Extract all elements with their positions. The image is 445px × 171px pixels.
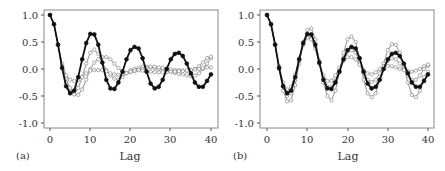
data-point-marker <box>394 51 398 55</box>
data-point-marker <box>269 22 273 26</box>
y-ticks-a: 1.0 0.5 0.0 -0.5 -1.0 <box>19 10 44 129</box>
data-point-marker <box>334 89 337 92</box>
data-point-marker <box>273 43 277 47</box>
data-point-marker <box>197 67 200 70</box>
data-point-marker <box>322 78 326 82</box>
data-point-marker <box>64 84 68 88</box>
data-point-marker <box>402 68 405 71</box>
data-point-marker <box>113 62 116 65</box>
data-point-marker <box>354 47 358 51</box>
data-point-marker <box>92 33 96 37</box>
data-point-marker <box>197 85 201 89</box>
x-ticks-b: 0 10 20 30 40 <box>264 128 435 145</box>
data-point-marker <box>141 69 144 72</box>
data-point-marker <box>398 54 402 58</box>
data-point-marker <box>73 79 76 82</box>
data-point-marker <box>330 87 334 91</box>
data-point-marker <box>48 13 52 17</box>
data-point-marker <box>346 48 350 52</box>
data-point-marker <box>342 57 346 61</box>
data-point-marker <box>317 61 321 65</box>
data-point-marker <box>125 57 129 61</box>
data-point-marker <box>56 43 60 47</box>
data-point-marker <box>414 69 417 72</box>
data-point-marker <box>285 91 289 95</box>
series-line <box>267 15 428 93</box>
data-point-marker <box>68 86 71 89</box>
data-point-marker <box>394 66 397 69</box>
data-point-marker <box>201 61 204 64</box>
data-point-marker <box>370 73 373 76</box>
data-point-marker <box>145 70 149 74</box>
data-point-marker <box>265 13 269 17</box>
data-point-marker <box>133 69 136 72</box>
panel-label-a: (a) <box>16 150 30 161</box>
y-ticks-b: 1.0 0.5 0.0 -0.5 -1.0 <box>235 10 260 129</box>
data-point-marker <box>93 61 96 64</box>
y-tick-label: 1.0 <box>238 10 254 21</box>
data-point-marker <box>157 66 160 69</box>
data-point-marker <box>386 57 390 61</box>
data-point-marker <box>113 73 116 76</box>
data-point-marker <box>394 43 397 46</box>
data-point-marker <box>293 75 297 79</box>
data-point-marker <box>334 81 338 85</box>
data-point-marker <box>193 68 196 71</box>
data-point-marker <box>197 72 200 75</box>
data-point-marker <box>173 70 176 73</box>
x-tick-label: 40 <box>205 134 218 145</box>
data-point-marker <box>89 51 92 54</box>
data-point-marker <box>374 71 377 74</box>
data-point-marker <box>205 62 208 65</box>
data-point-marker <box>410 70 413 73</box>
data-point-marker <box>354 40 357 43</box>
data-point-marker <box>89 69 92 72</box>
x-tick-label: 0 <box>264 134 270 145</box>
data-point-marker <box>153 87 157 91</box>
figure: 1.0 0.5 0.0 -0.5 -1.0 0 10 20 30 40 Lag … <box>0 0 445 171</box>
x-ticks-a: 0 10 20 30 40 <box>47 128 218 145</box>
data-point-marker <box>133 45 137 49</box>
data-point-marker <box>305 32 309 36</box>
data-point-marker <box>330 99 333 102</box>
data-point-marker <box>402 62 406 66</box>
data-point-marker <box>117 73 120 76</box>
data-point-marker <box>354 58 357 61</box>
data-point-marker <box>418 89 421 92</box>
data-point-marker <box>410 81 414 85</box>
data-point-marker <box>209 55 212 58</box>
data-point-marker <box>209 73 213 77</box>
data-point-marker <box>161 71 164 74</box>
data-point-marker <box>374 85 378 89</box>
data-point-marker <box>346 38 349 41</box>
data-point-marker <box>109 87 113 91</box>
x-tick-label: 30 <box>164 134 177 145</box>
data-point-marker <box>97 58 100 61</box>
data-point-marker <box>390 52 394 56</box>
data-point-marker <box>289 99 292 102</box>
data-point-marker <box>418 74 421 77</box>
data-point-marker <box>193 81 197 85</box>
x-tick-label: 20 <box>124 134 137 145</box>
data-point-marker <box>149 82 153 86</box>
series-observed <box>265 13 430 95</box>
data-point-marker <box>414 78 417 81</box>
data-point-marker <box>169 70 172 73</box>
x-axis-title-a: Lag <box>120 150 141 163</box>
data-point-marker <box>153 65 156 68</box>
series-group-a <box>48 13 213 97</box>
data-point-marker <box>281 84 285 88</box>
data-point-marker <box>72 89 76 93</box>
data-point-marker <box>85 62 88 65</box>
data-point-marker <box>76 75 80 79</box>
data-point-marker <box>382 67 386 71</box>
data-point-marker <box>93 68 96 71</box>
data-point-marker <box>205 79 209 83</box>
data-point-marker <box>88 32 92 36</box>
data-point-marker <box>81 75 84 78</box>
data-point-marker <box>185 62 189 66</box>
data-point-marker <box>100 61 104 65</box>
data-point-marker <box>394 58 397 61</box>
data-point-marker <box>366 92 369 95</box>
y-tick-label: -1.0 <box>19 118 38 129</box>
